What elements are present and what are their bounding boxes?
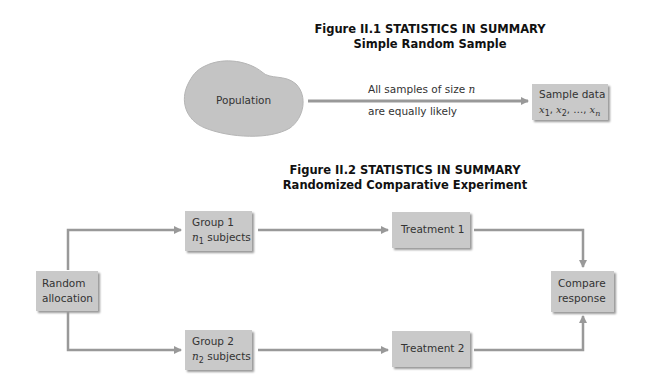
compare-response-box: Compare response xyxy=(551,271,614,312)
group2-size: n2 subjects xyxy=(192,349,252,368)
treatment1-box: Treatment 1 xyxy=(392,212,470,248)
group2-box: Group 2 n2 subjects xyxy=(185,330,252,370)
figure1-title: Figure II.1 STATISTICS IN SUMMARY Simple… xyxy=(300,22,560,52)
figure2-title-line1: Figure II.2 STATISTICS IN SUMMARY xyxy=(255,163,555,178)
sample-data-values: x1, x2, …, xn xyxy=(539,102,608,121)
figure2-title: Figure II.2 STATISTICS IN SUMMARY Random… xyxy=(255,163,555,193)
arrow-label-line2: are equally likely xyxy=(368,105,457,117)
figure1-title-line2: Simple Random Sample xyxy=(300,37,560,52)
figure1-title-line1: Figure II.1 STATISTICS IN SUMMARY xyxy=(300,22,560,37)
random-allocation-box: Random allocation xyxy=(36,271,98,311)
arrow-label-line1: All samples of size n xyxy=(368,83,475,95)
sample-data-label: Sample data xyxy=(539,87,608,102)
connectors xyxy=(0,0,646,389)
group1-box: Group 1 n1 subjects xyxy=(185,211,252,251)
treatment2-box: Treatment 2 xyxy=(392,331,470,367)
arrow-label-text: All samples of size xyxy=(368,83,465,95)
arrow-label-var: n xyxy=(469,83,476,95)
group1-size: n1 subjects xyxy=(192,230,252,249)
figure2-title-line2: Randomized Comparative Experiment xyxy=(255,178,555,193)
population-label: Population xyxy=(216,94,271,106)
sample-data-box: Sample data x1, x2, …, xn xyxy=(532,84,608,120)
